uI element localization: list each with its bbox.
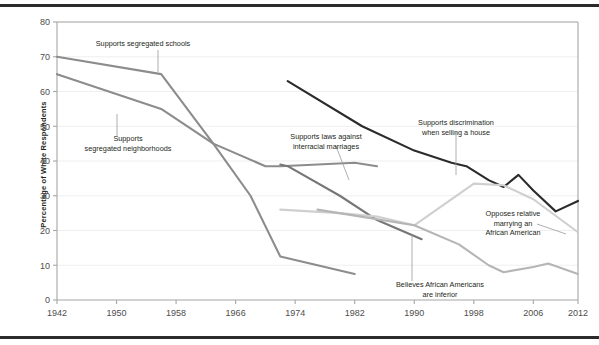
annot-opposes-relative-marrying-an-african-american-line-0: Opposes relative	[486, 209, 541, 218]
line-chart: 01020304050607080 1942195019581966197419…	[0, 0, 599, 345]
annot-supports-discrimination-when-selling-a-house-line-1: when selling a house	[421, 128, 490, 137]
x-axis-ticks: 1942195019581966197419821990199820062012	[47, 300, 588, 318]
annot-believes-african-americans-are-inferior-line-0: Believes African Americans	[396, 280, 484, 289]
y-tick-label-70: 70	[40, 52, 50, 62]
y-tick-label-50: 50	[40, 122, 50, 132]
x-tick-label-2006: 2006	[523, 308, 543, 318]
y-tick-label-60: 60	[40, 87, 50, 97]
annot-opposes-relative-marrying-an-african-american-line-2: African American	[485, 228, 540, 237]
series-line-2	[280, 164, 421, 239]
figure-root: Percentage of White Respondents 01020304…	[0, 0, 599, 345]
x-tick-label-1942: 1942	[47, 308, 67, 318]
annot-supports-segregated-schools: Supports segregated schools	[96, 39, 191, 48]
y-tick-label-10: 10	[40, 261, 50, 271]
x-tick-label-2012: 2012	[568, 308, 588, 318]
x-tick-label-1966: 1966	[226, 308, 246, 318]
x-tick-label-1982: 1982	[345, 308, 365, 318]
annotation-leader-lines	[117, 50, 566, 281]
annot-supports-segregated-neighborhoods-line-0: Supports	[113, 134, 143, 143]
series-line-1	[57, 74, 355, 274]
y-tick-label-80: 80	[40, 17, 50, 27]
annot-supports-laws-against-interracial-marriages: Supports laws againstinterracial marriag…	[290, 132, 361, 151]
annot-believes-african-americans-are-inferior: Believes African Americansare inferior	[396, 280, 484, 299]
y-tick-label-20: 20	[40, 226, 50, 236]
annot-supports-discrimination-when-selling-a-house-line-0: Supports discrimination	[418, 118, 494, 127]
x-tick-label-1950: 1950	[107, 308, 127, 318]
series-line-5	[318, 210, 579, 274]
data-series	[57, 57, 578, 274]
x-tick-label-1974: 1974	[285, 308, 305, 318]
chart-svg: 01020304050607080 1942195019581966197419…	[0, 0, 599, 345]
x-tick-label-1958: 1958	[166, 308, 186, 318]
annot-supports-segregated-schools-line-0: Supports segregated schools	[96, 39, 191, 48]
y-tick-label-30: 30	[40, 191, 50, 201]
y-tick-label-0: 0	[45, 295, 50, 305]
annot-opposes-relative-marrying-an-african-american-leader	[537, 224, 566, 234]
x-tick-label-1990: 1990	[404, 308, 424, 318]
x-tick-label-1998: 1998	[464, 308, 484, 318]
annot-supports-discrimination-when-selling-a-house: Supports discriminationwhen selling a ho…	[418, 118, 494, 137]
annot-opposes-relative-marrying-an-african-american: Opposes relativemarrying anAfrican Ameri…	[485, 209, 540, 237]
annot-supports-segregated-neighborhoods: Supportssegregated neighborhoods	[85, 134, 172, 153]
y-tick-label-40: 40	[40, 156, 50, 166]
y-axis-ticks: 01020304050607080	[40, 17, 57, 305]
annot-supports-laws-against-interracial-marriages-line-1: interracial marriages	[293, 142, 359, 151]
annot-believes-african-americans-are-inferior-line-1: are inferior	[423, 290, 458, 299]
annot-opposes-relative-marrying-an-african-american-line-1: marrying an	[494, 219, 533, 228]
annot-supports-laws-against-interracial-marriages-line-0: Supports laws against	[290, 132, 361, 141]
annot-supports-segregated-neighborhoods-line-1: segregated neighborhoods	[85, 144, 172, 153]
